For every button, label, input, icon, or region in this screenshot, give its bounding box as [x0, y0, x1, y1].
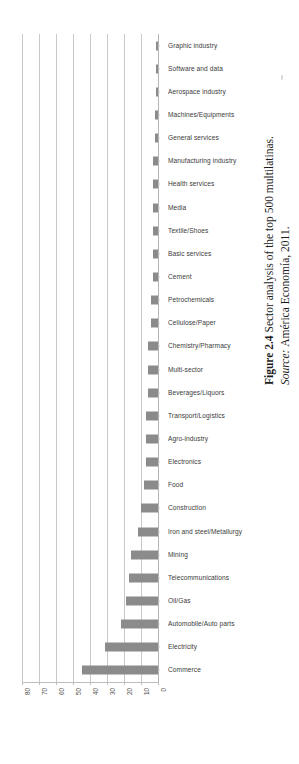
category-tick — [158, 138, 160, 139]
category-label: Media — [168, 204, 186, 211]
bar-row: Software and data — [22, 57, 158, 80]
gridline-0 — [158, 34, 159, 682]
category-tick — [158, 91, 160, 92]
category-label: Machines/Equipments — [168, 112, 234, 119]
bar-row: Basic services — [22, 242, 158, 265]
bar-row: Commerce — [22, 659, 158, 682]
bar-row: Graphic industry — [22, 34, 158, 57]
category-label: Software and data — [168, 65, 223, 72]
bar — [129, 573, 158, 582]
category-tick — [158, 253, 160, 254]
bar-row: Chemistry/Pharmacy — [22, 335, 158, 358]
bar — [126, 596, 158, 605]
bar — [105, 643, 158, 652]
category-tick — [158, 230, 160, 231]
x-tick-label: 50 — [76, 688, 82, 695]
category-tick — [158, 45, 160, 46]
x-tick-70 — [39, 682, 40, 685]
category-label: Commerce — [168, 667, 201, 674]
bar-row: Multi-sector — [22, 358, 158, 381]
bar — [148, 342, 158, 351]
bar-row: General services — [22, 127, 158, 150]
figure-container: Graphic industrySoftware and dataAerospa… — [0, 0, 299, 764]
scan-artifact — [281, 75, 283, 80]
bar — [146, 458, 158, 467]
category-label: Beverages/Liquors — [168, 389, 224, 396]
x-tick-50 — [73, 682, 74, 685]
category-label: Petrochemicals — [168, 297, 214, 304]
category-label: Electricity — [168, 644, 197, 651]
bar — [138, 527, 158, 536]
x-tick-label: 20 — [127, 688, 133, 695]
bar-row: Machines/Equipments — [22, 103, 158, 126]
x-axis: 80706050403020100 — [22, 682, 159, 722]
bar-row: Mining — [22, 543, 158, 566]
category-label: Cement — [168, 274, 192, 281]
bar — [131, 550, 158, 559]
category-tick — [158, 438, 160, 439]
bar-row: Electronics — [22, 451, 158, 474]
bar-row: Textile/Shoes — [22, 219, 158, 242]
figure-caption: Figure 2.4 Sector analysis of the top 50… — [262, 85, 293, 385]
category-label: Aerospace industry — [168, 89, 226, 96]
bar-row: Agro-industry — [22, 427, 158, 450]
bar-row: Petrochemicals — [22, 289, 158, 312]
x-tick-label: 30 — [110, 688, 116, 695]
x-tick-20 — [124, 682, 125, 685]
bar — [148, 365, 158, 374]
category-tick — [158, 462, 160, 463]
category-tick — [158, 415, 160, 416]
category-label: Graphic industry — [168, 42, 217, 49]
bar-row: Manufacturing industry — [22, 150, 158, 173]
source-text: América Economía, 2011. — [279, 226, 291, 346]
category-label: General services — [168, 135, 219, 142]
category-tick — [158, 554, 160, 555]
bar — [148, 388, 158, 397]
caption-line-main: Figure 2.4 Sector analysis of the top 50… — [262, 85, 278, 385]
category-tick — [158, 300, 160, 301]
bar-row: Aerospace industry — [22, 80, 158, 103]
category-tick — [158, 323, 160, 324]
bar-row: Automobile/Auto parts — [22, 613, 158, 636]
bar — [151, 296, 158, 305]
caption-description: Sector analysis of the top 500 multilati… — [263, 136, 275, 332]
x-tick-40 — [90, 682, 91, 685]
category-label: Oil/Gas — [168, 598, 191, 605]
category-label: Food — [168, 482, 183, 489]
category-tick — [158, 207, 160, 208]
bar — [141, 504, 158, 513]
category-label: Multi-sector — [168, 366, 203, 373]
category-label: Manufacturing industry — [168, 158, 236, 165]
bar-row: Transport/Logistics — [22, 404, 158, 427]
x-tick-label: 60 — [59, 688, 65, 695]
category-label: Iron and steel/Metallurgy — [168, 528, 242, 535]
bar-row: Electricity — [22, 636, 158, 659]
source-sep — [279, 347, 291, 350]
x-tick-label: 70 — [42, 688, 48, 695]
category-tick — [158, 276, 160, 277]
bar-row: Iron and steel/Metallurgy — [22, 520, 158, 543]
caption-figure-text — [263, 333, 275, 336]
bar-row: Media — [22, 196, 158, 219]
bar-row: Telecommunications — [22, 566, 158, 589]
caption-figure-number: Figure 2.4 — [263, 335, 275, 385]
bar-row: Oil/Gas — [22, 589, 158, 612]
category-tick — [158, 647, 160, 648]
category-tick — [158, 161, 160, 162]
bar-row: Construction — [22, 497, 158, 520]
bar — [146, 411, 158, 420]
bar-row: Beverages/Liquors — [22, 381, 158, 404]
x-tick-label: 40 — [93, 688, 99, 695]
bar — [82, 666, 159, 675]
category-label: Cellulose/Paper — [168, 320, 216, 327]
x-tick-80 — [22, 682, 23, 685]
category-tick — [158, 531, 160, 532]
x-tick-10 — [141, 682, 142, 685]
bar-row: Cement — [22, 265, 158, 288]
category-label: Transport/Logistics — [168, 413, 225, 420]
category-tick — [158, 369, 160, 370]
category-tick — [158, 114, 160, 115]
bar — [121, 620, 158, 629]
bar-row: Health services — [22, 173, 158, 196]
x-tick-label: 10 — [144, 688, 150, 695]
